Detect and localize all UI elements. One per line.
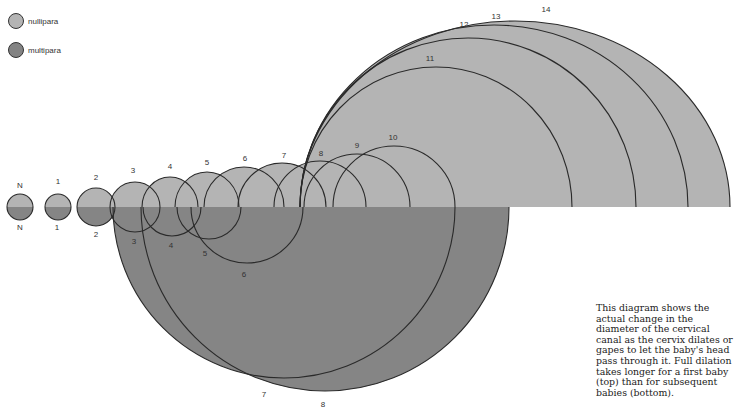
nullipara-label-N: N <box>17 181 23 190</box>
legend-item-nullipara: nullipara <box>8 12 61 30</box>
multipara-label-2: 2 <box>94 230 99 239</box>
nullipara-label-12: 12 <box>460 20 469 29</box>
nullipara-fills <box>7 21 730 207</box>
nullipara-label-9: 9 <box>355 141 360 150</box>
multipara-stage-2 <box>77 207 115 226</box>
legend-item-multipara: multipara <box>8 41 61 59</box>
nullipara-label-13: 13 <box>492 12 501 21</box>
multipara-label-5: 5 <box>203 249 208 258</box>
multipara-label-N: N <box>17 223 23 232</box>
multipara-label-3: 3 <box>132 237 137 246</box>
multipara-label-7: 7 <box>262 390 267 399</box>
nullipara-label-14: 14 <box>542 5 551 14</box>
multipara-swatch-icon <box>8 42 24 58</box>
multipara-fills <box>7 207 509 391</box>
multipara-label-1: 1 <box>55 223 60 232</box>
nullipara-stage-N <box>7 194 33 207</box>
multipara-label-8: 8 <box>321 400 326 409</box>
nullipara-swatch-icon <box>8 13 24 29</box>
nullipara-label-1: 1 <box>56 177 61 186</box>
nullipara-stage-2 <box>77 188 115 207</box>
nullipara-label-4: 4 <box>168 162 173 171</box>
nullipara-label-5: 5 <box>205 158 210 167</box>
multipara-stage-N <box>7 207 33 220</box>
multipara-label-4: 4 <box>169 241 174 250</box>
caption-text: This diagram shows the actual change in … <box>596 303 736 398</box>
nullipara-label-2: 2 <box>94 173 99 182</box>
nullipara-label-8: 8 <box>319 149 324 158</box>
legend-label-nullipara: nullipara <box>28 17 58 26</box>
nullipara-label-6: 6 <box>243 154 248 163</box>
nullipara-label-3: 3 <box>131 166 136 175</box>
legend-label-multipara: multipara <box>28 46 61 55</box>
legend: nullipara multipara <box>8 12 61 70</box>
nullipara-label-10: 10 <box>389 133 398 142</box>
nullipara-label-11: 11 <box>426 54 435 63</box>
multipara-stage-1 <box>45 207 71 220</box>
nullipara-stage-1 <box>45 194 71 207</box>
multipara-label-6: 6 <box>242 270 247 279</box>
nullipara-label-7: 7 <box>282 151 287 160</box>
